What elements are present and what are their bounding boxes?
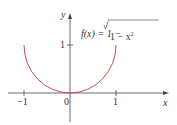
function-label-radicand: 1 − x2 <box>110 29 134 42</box>
x-axis-arrow-icon <box>163 91 169 95</box>
graph: y x 0 −1 1 1 f(x) = 1 − 1 − x2 <box>0 0 177 125</box>
x-tick-label-neg1: −1 <box>17 97 28 107</box>
radicand-text: 1 − x <box>110 31 131 42</box>
y-axis-label: y <box>61 10 65 20</box>
origin-label: 0 <box>64 97 69 107</box>
exponent: 2 <box>131 31 134 37</box>
x-tick-label-1: 1 <box>113 97 118 107</box>
y-tick-label-1: 1 <box>60 40 65 50</box>
y-axis-arrow-icon <box>68 13 72 19</box>
x-axis-label: x <box>163 98 167 108</box>
